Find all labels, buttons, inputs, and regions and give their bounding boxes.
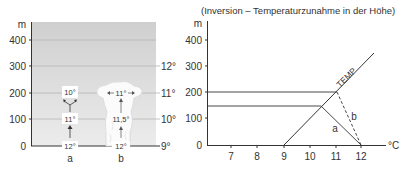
line-a-label: a <box>332 123 338 134</box>
atmosphere-background <box>32 22 156 146</box>
env-temp-100m: 10° <box>161 114 176 125</box>
right-panel-chart: (Inversion – Temperaturzunahme in der Hö… <box>185 5 399 162</box>
x-tick-9: 9 <box>281 151 287 162</box>
x-tick-10: 10 <box>304 151 316 162</box>
column-a-label: a <box>67 153 73 164</box>
right-y-tick-400: 400 <box>185 35 202 46</box>
left-y-unit: m <box>18 19 26 30</box>
left-y-tick-0: 0 <box>20 141 26 152</box>
parcel-a-temp-0m: 12° <box>64 142 75 151</box>
parcel-b-temp-0m: 12° <box>115 142 126 151</box>
x-unit: °C <box>388 140 399 151</box>
parcel-b-temp-200m: 11° <box>116 89 127 98</box>
x-tick-7: 7 <box>228 151 234 162</box>
line-b <box>337 92 361 145</box>
parcel-a-temp-100m: 11° <box>65 115 76 124</box>
left-y-tick-300: 300 <box>9 61 26 72</box>
right-y-tick-100: 100 <box>185 113 202 124</box>
env-temp-200m: 11° <box>161 88 175 99</box>
right-y-tick-0: 0 <box>196 140 202 151</box>
left-y-tick-100: 100 <box>9 114 26 125</box>
column-b-label: b <box>118 153 124 164</box>
chart-title: (Inversion – Temperaturzunahme in der Hö… <box>201 5 395 16</box>
right-y-unit: m <box>194 18 202 29</box>
left-y-tick-200: 200 <box>9 88 26 99</box>
x-tick-11: 11 <box>331 151 342 162</box>
temp-line-label: TEMP <box>334 65 358 89</box>
x-tick-8: 8 <box>254 151 260 162</box>
env-temp-0m: 9° <box>161 141 171 152</box>
inversion-diagram: m 0 100 200 300 400 9° 10° 11° 12° 12° 1… <box>0 0 404 170</box>
temp-line <box>284 53 374 145</box>
x-tick-12: 12 <box>355 151 367 162</box>
env-temp-300m: 12° <box>161 61 176 72</box>
right-y-tick-300: 300 <box>185 61 202 72</box>
parcel-a-temp-200m: 10° <box>64 88 75 97</box>
left-panel: m 0 100 200 300 400 9° 10° 11° 12° 12° 1… <box>9 19 176 164</box>
parcel-b-temp-100m: 11,5° <box>112 115 129 124</box>
right-y-tick-200: 200 <box>185 87 202 98</box>
left-y-tick-400: 400 <box>9 35 26 46</box>
line-b-label: b <box>351 111 357 122</box>
